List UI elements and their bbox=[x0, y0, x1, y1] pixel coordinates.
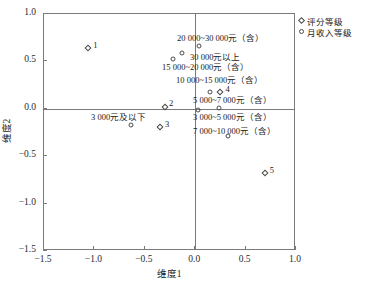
y-axis-tick-label: −0.5 bbox=[0, 150, 36, 160]
scatter-plot-figure: 12345 20 000~30 000元（含）30 000元以上15 000~2… bbox=[0, 0, 370, 284]
y-axis-tick bbox=[43, 108, 47, 109]
legend-item-label: 月收入等级 bbox=[307, 26, 352, 38]
data-point-diamond bbox=[261, 170, 268, 177]
y-axis-tick bbox=[43, 250, 47, 251]
data-point-diamond bbox=[85, 45, 92, 52]
legend-diamond-icon bbox=[298, 17, 305, 24]
category-annotation: 15 000~20 000元（含） bbox=[162, 63, 249, 72]
category-annotation: 10 000~15 000元（含） bbox=[176, 76, 263, 85]
data-point-circle bbox=[208, 89, 213, 94]
data-point-label: 3 bbox=[165, 120, 169, 129]
y-axis-tick-label: −1.0 bbox=[0, 198, 36, 208]
y-axis-tick bbox=[43, 13, 47, 14]
data-point-diamond bbox=[156, 123, 163, 130]
x-axis-tick bbox=[194, 246, 195, 250]
category-annotation: 30 000元以上 bbox=[190, 53, 240, 62]
legend-item: 月收入等级 bbox=[299, 26, 367, 37]
x-axis-tick bbox=[144, 246, 145, 250]
data-point-label: 2 bbox=[169, 99, 173, 108]
data-point-circle bbox=[171, 56, 176, 61]
x-axis-tick-label: 1.0 bbox=[289, 255, 301, 265]
x-axis-tick-label: −1.0 bbox=[85, 255, 102, 265]
y-axis-tick bbox=[43, 155, 47, 156]
y-axis-tick bbox=[43, 203, 47, 204]
x-axis-tick bbox=[93, 246, 94, 250]
y-axis-tick-label: −1.5 bbox=[0, 245, 36, 255]
category-annotation: 7 000~10 000元（含） bbox=[193, 127, 276, 136]
category-annotation: 3 000元及以下 bbox=[91, 113, 146, 122]
plot-area: 12345 20 000~30 000元（含）30 000元以上15 000~2… bbox=[43, 13, 295, 250]
legend-item: 评分等级 bbox=[299, 15, 367, 26]
data-point-label: 1 bbox=[93, 41, 97, 50]
x-axis-tick bbox=[295, 246, 296, 250]
chart-legend: 评分等级月收入等级 bbox=[299, 15, 367, 37]
horizontal-zero-axis-line bbox=[44, 109, 294, 110]
y-axis-title: 维度2 bbox=[0, 119, 13, 144]
y-axis-tick-label: 0.0 bbox=[0, 103, 36, 113]
y-axis-tick bbox=[43, 60, 47, 61]
x-axis-title: 维度1 bbox=[157, 266, 182, 280]
data-point-circle bbox=[217, 105, 222, 110]
data-point-label: 4 bbox=[225, 85, 229, 94]
x-axis-tick-label: −0.5 bbox=[135, 255, 152, 265]
legend-circle-icon bbox=[299, 29, 304, 34]
x-axis-tick bbox=[245, 246, 246, 250]
data-point-circle bbox=[197, 44, 202, 49]
data-point-label: 5 bbox=[270, 166, 274, 175]
data-point-circle bbox=[180, 50, 185, 55]
category-annotation: 20 000~30 000元（含） bbox=[177, 34, 264, 43]
category-annotation: 5 000~7 000元（含） bbox=[193, 96, 272, 105]
y-axis-tick-label: 1.0 bbox=[0, 8, 36, 18]
x-axis-tick-label: 0.5 bbox=[239, 255, 251, 265]
x-axis-tick-label: −1.5 bbox=[34, 255, 51, 265]
data-point-circle bbox=[128, 122, 133, 127]
x-axis-tick-label: 0.0 bbox=[188, 255, 200, 265]
y-axis-tick-label: 0.5 bbox=[0, 56, 36, 66]
category-annotation: 3 000~5 000元（含） bbox=[193, 113, 272, 122]
